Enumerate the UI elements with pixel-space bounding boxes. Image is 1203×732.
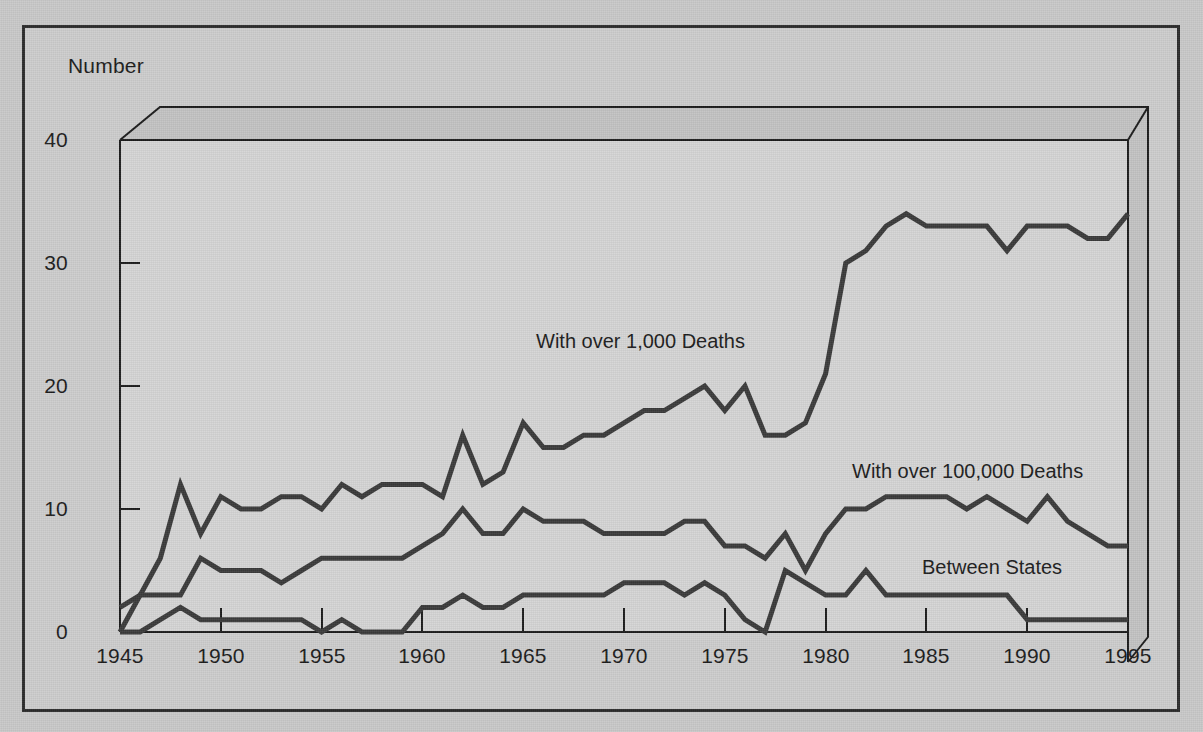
x-tick-label-1965: 1965 bbox=[483, 644, 563, 668]
x-tick-label-1985: 1985 bbox=[886, 644, 966, 668]
y-tick-label-0: 0 bbox=[22, 620, 68, 644]
x-tick-label-1970: 1970 bbox=[584, 644, 664, 668]
series-label-over-1000-deaths: With over 1,000 Deaths bbox=[536, 330, 745, 353]
chart-canvas bbox=[0, 0, 1203, 732]
plot-right-face bbox=[1128, 107, 1148, 662]
x-tick-label-1960: 1960 bbox=[382, 644, 462, 668]
x-tick-label-1980: 1980 bbox=[786, 644, 866, 668]
x-tick-label-1975: 1975 bbox=[685, 644, 765, 668]
y-tick-label-20: 20 bbox=[22, 374, 68, 398]
x-tick-label-1945: 1945 bbox=[80, 644, 160, 668]
x-tick-label-1995: 1995 bbox=[1088, 644, 1168, 668]
y-axis-title: Number bbox=[68, 54, 144, 78]
x-tick-label-1950: 1950 bbox=[181, 644, 261, 668]
y-tick-label-40: 40 bbox=[22, 128, 68, 152]
y-tick-label-10: 10 bbox=[22, 497, 68, 521]
series-label-over-100000-deaths: With over 100,000 Deaths bbox=[852, 460, 1083, 483]
plot-top-face bbox=[120, 107, 1148, 140]
series-label-between-states: Between States bbox=[922, 556, 1062, 579]
x-tick-label-1955: 1955 bbox=[282, 644, 362, 668]
x-tick-label-1990: 1990 bbox=[987, 644, 1067, 668]
y-tick-label-30: 30 bbox=[22, 251, 68, 275]
